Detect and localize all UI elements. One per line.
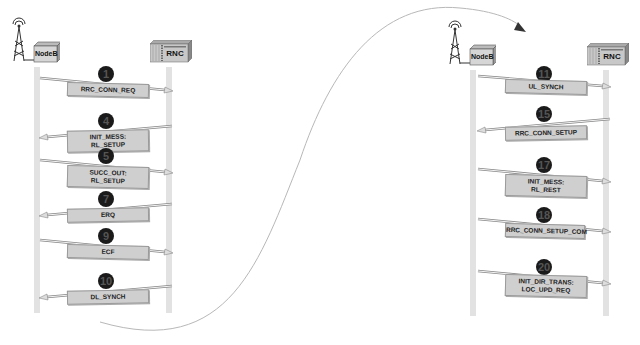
rnc-label: RNC (164, 49, 186, 58)
message-step-10: 10 DL_SYNCH (37, 273, 177, 317)
message-label: RRC_CONN_SETUP (505, 125, 587, 140)
step-badge: 9 (98, 228, 114, 244)
nodeb-entity: NodeB (442, 19, 496, 67)
message-label: RRC_CONN_REQ (67, 82, 149, 98)
nodeb-label: NodeB (471, 53, 493, 60)
message-step-15: 15 RRC_CONN_SETUP (475, 106, 615, 150)
nodeb-entity: NodeB (6, 16, 60, 64)
message-label: ECF (67, 244, 149, 260)
message-label: INIT_MESS:RL_REST (505, 174, 588, 198)
step-badge: 15 (536, 106, 552, 122)
step-badge: 5 (98, 148, 114, 164)
message-label: INIT_DIR_TRANS:LOC_UPD_REQ (505, 274, 588, 298)
step-badge: 1 (98, 66, 114, 82)
message-label: SUCC_OUT:RL_SETUP (67, 165, 150, 189)
message-step-1: 1 RRC_CONN_REQ (37, 66, 177, 110)
message-step-11: 11 UL_SYNCH (475, 66, 615, 110)
step-badge: 17 (536, 157, 552, 173)
nodeb-label: NodeB (35, 50, 57, 57)
rnc-entity: RNC (587, 43, 629, 67)
step-badge: 4 (98, 113, 114, 129)
message-label: RRC_CONN_SETUP_COM (505, 223, 585, 239)
step-badge: 10 (98, 273, 114, 289)
message-label: UL_SYNCH (505, 79, 587, 95)
message-step-9: 9 ECF (37, 228, 177, 272)
message-label: ERQ (67, 207, 149, 222)
message-step-5: 5 SUCC_OUT:RL_SETUP (37, 148, 177, 192)
step-badge: 18 (536, 207, 552, 223)
message-step-20: 20 INIT_DIR_TRANS:LOC_UPD_REQ (475, 259, 615, 303)
rnc-entity: RNC (150, 40, 192, 64)
step-badge: 7 (98, 191, 114, 207)
step-badge: 20 (536, 259, 552, 275)
message-step-17: 17 INIT_MESS:RL_REST (475, 157, 615, 201)
message-step-18: 18 RRC_CONN_SETUP_COM (475, 207, 615, 251)
message-label: DL_SYNCH (67, 289, 149, 304)
rnc-label: RNC (601, 52, 623, 61)
